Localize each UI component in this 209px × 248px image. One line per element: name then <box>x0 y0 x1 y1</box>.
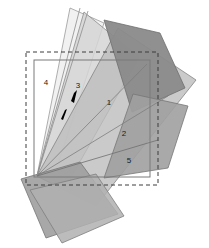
sector-label-5: 5 <box>127 156 132 165</box>
sector-label-4: 4 <box>44 78 49 87</box>
sector-label-3: 3 <box>76 81 81 90</box>
sector-label-1: 1 <box>107 98 112 107</box>
diagram-canvas: 1 2 3 4 5 <box>0 0 209 248</box>
sector-label-2: 2 <box>122 129 127 138</box>
figure-svg: 1 2 3 4 5 <box>0 0 209 248</box>
